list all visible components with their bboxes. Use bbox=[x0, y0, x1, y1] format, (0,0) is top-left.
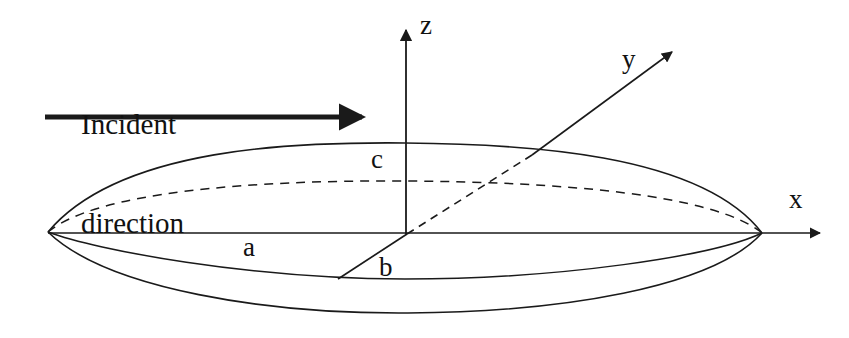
y-axis-hidden-segment bbox=[407, 155, 532, 234]
x-axis-label: x bbox=[789, 186, 803, 213]
semi-axis-c-label: c bbox=[371, 146, 383, 173]
incident-direction-line-1: Incident bbox=[81, 108, 184, 141]
z-axis-label: z bbox=[420, 12, 432, 39]
incident-direction-label: Incident direction bbox=[81, 42, 184, 306]
semi-axis-b-label: b bbox=[379, 254, 393, 281]
ellipsoid-figure: Incident direction z y x c a b bbox=[0, 0, 849, 338]
semi-axis-a-label: a bbox=[243, 234, 255, 261]
semi-axis-b-segment bbox=[338, 234, 407, 279]
incident-direction-line-2: direction bbox=[81, 207, 184, 240]
y-axis-label: y bbox=[622, 46, 636, 73]
y-axis bbox=[532, 52, 672, 155]
